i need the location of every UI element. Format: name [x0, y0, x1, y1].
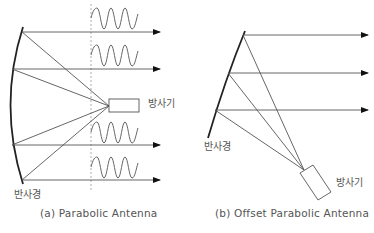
parabolic-reflector	[11, 27, 24, 184]
feed-label-a: 방사기	[148, 99, 175, 109]
reflector-label-a: 반사경	[14, 190, 41, 200]
offset-reflector	[208, 31, 245, 138]
wave-symbols	[91, 8, 138, 178]
offset-feed-horn	[300, 165, 331, 200]
feed-label-b: 방사기	[336, 178, 363, 188]
antenna-diagrams	[0, 0, 374, 233]
parabolic-antenna-diagram	[11, 4, 161, 192]
caption-b: (b) Offset Parabolic Antenna	[215, 208, 369, 219]
offset-parabolic-antenna-diagram	[208, 31, 368, 200]
feed-horn	[109, 99, 139, 112]
offset-output-beams	[215, 35, 368, 110]
reflector-label-b: 반사경	[204, 142, 231, 152]
caption-a: (a) Parabolic Antenna	[40, 208, 157, 219]
